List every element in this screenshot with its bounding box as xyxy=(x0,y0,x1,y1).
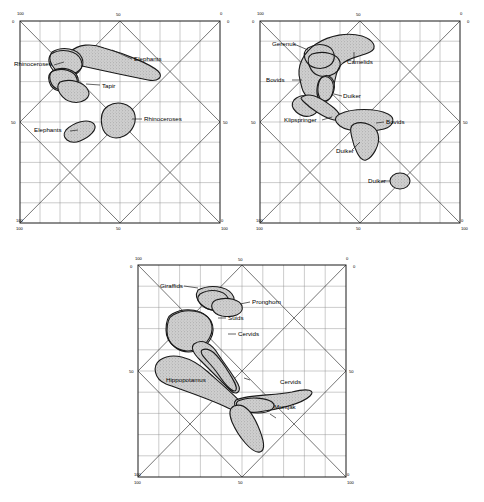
svg-text:50: 50 xyxy=(463,120,468,125)
region-label-rhinoceroses-upper: Rhinoceroses xyxy=(14,60,52,67)
region-label-rhinoceroses-lower: Rhinoceroses xyxy=(144,115,182,122)
svg-text:100: 100 xyxy=(256,226,264,231)
panel-c-regions xyxy=(155,287,312,453)
svg-text:50: 50 xyxy=(238,480,243,485)
svg-text:50: 50 xyxy=(356,12,361,17)
svg-text:100: 100 xyxy=(256,218,264,223)
region-label-elephants-upper: Elephants xyxy=(134,55,162,62)
svg-text:50: 50 xyxy=(356,226,361,231)
svg-text:50: 50 xyxy=(129,369,134,374)
region-label-suids: Suids xyxy=(228,314,243,321)
svg-text:100: 100 xyxy=(16,226,24,231)
svg-text:0: 0 xyxy=(130,264,133,269)
svg-text:100: 100 xyxy=(461,226,469,231)
svg-text:0: 0 xyxy=(467,19,470,24)
svg-text:50: 50 xyxy=(251,120,256,125)
svg-text:50: 50 xyxy=(11,120,16,125)
svg-text:100: 100 xyxy=(134,472,142,477)
region-label-giraffids: Giraffids xyxy=(160,282,183,289)
svg-text:0: 0 xyxy=(353,264,356,269)
svg-text:50: 50 xyxy=(223,120,228,125)
svg-text:100: 100 xyxy=(257,11,265,16)
panel-b-plot: Gerenuk Camelids Bovids Duiker Klipsprin… xyxy=(248,8,476,240)
svg-text:0: 0 xyxy=(461,218,464,223)
svg-text:0: 0 xyxy=(227,19,230,24)
region-label-duiker-upper: Duiker xyxy=(343,92,361,99)
svg-text:0: 0 xyxy=(220,11,223,16)
region-label-hippopotamus: Hippopotamus xyxy=(166,376,206,383)
region-label-cervids-upper: Cervids xyxy=(238,330,259,337)
svg-text:0: 0 xyxy=(221,218,224,223)
panel-c: Giraffids Pronghorn Suids Cervids Hippop… xyxy=(124,256,362,496)
svg-text:100: 100 xyxy=(221,226,229,231)
panel-b: Gerenuk Camelids Bovids Duiker Klipsprin… xyxy=(248,8,476,240)
panel-a-plot: Rhinoceroses Elephants Tapir Elephants R… xyxy=(8,8,236,240)
region-label-klipspringer: Klipspringer xyxy=(284,116,317,123)
svg-text:0: 0 xyxy=(460,11,463,16)
region-label-muntjak: Muntjak xyxy=(274,403,297,410)
region-label-bovids-upper: Bovids xyxy=(266,76,285,83)
svg-text:0: 0 xyxy=(347,472,350,477)
svg-text:100: 100 xyxy=(347,480,355,485)
svg-text:0: 0 xyxy=(346,256,349,261)
svg-text:0: 0 xyxy=(252,19,255,24)
svg-text:100: 100 xyxy=(17,11,25,16)
region-label-pronghorn: Pronghorn xyxy=(252,298,281,305)
svg-text:50: 50 xyxy=(116,226,121,231)
region-label-tapir: Tapir xyxy=(102,82,115,89)
panel-c-plot: Giraffids Pronghorn Suids Cervids Hippop… xyxy=(124,256,362,496)
region-label-gerenuk: Gerenuk xyxy=(272,40,297,47)
region-label-bovids-mid: Bovids xyxy=(386,118,405,125)
region-label-duiker-lower: Duiker xyxy=(368,177,386,184)
svg-text:100: 100 xyxy=(135,256,143,261)
svg-text:100: 100 xyxy=(134,480,142,485)
svg-text:50: 50 xyxy=(349,369,354,374)
svg-text:0: 0 xyxy=(12,19,15,24)
region-label-duiker-mid: Duiker xyxy=(336,147,354,154)
region-label-cervids-right: Cervids xyxy=(280,378,301,385)
svg-text:50: 50 xyxy=(238,257,243,262)
svg-text:50: 50 xyxy=(116,12,121,17)
region-label-camelids: Camelids xyxy=(347,58,373,65)
svg-text:100: 100 xyxy=(16,218,24,223)
panel-a: Rhinoceroses Elephants Tapir Elephants R… xyxy=(8,8,236,240)
region-label-elephants-lower: Elephants xyxy=(34,126,62,133)
